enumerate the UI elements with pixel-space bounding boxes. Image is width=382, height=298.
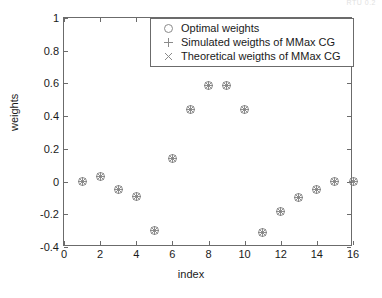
x-tick-label: 0	[61, 249, 67, 260]
x-tick-label: 16	[347, 249, 359, 260]
x-tick-label: 10	[239, 249, 251, 260]
x-tick	[245, 241, 246, 245]
x-tick	[64, 241, 65, 245]
y-tick-label: 0.2	[44, 143, 59, 154]
x-tick-label: 8	[205, 249, 211, 260]
legend-label: Theoretical weigths of MMax CG	[181, 51, 341, 62]
x-axis-label: index	[0, 268, 382, 280]
x-tick	[317, 241, 318, 245]
y-tick	[64, 51, 68, 52]
x-tick	[353, 241, 354, 245]
x-tick	[172, 241, 173, 245]
y-tick-label: -0.2	[40, 209, 59, 220]
y-tick	[347, 214, 351, 215]
times-marker	[239, 104, 250, 115]
y-tick-label: -0.4	[40, 242, 59, 253]
scatter-plot-figure: RTU 0.2 weights index -0.4-0.200.20.40.6…	[0, 0, 382, 298]
y-tick-label: 0.4	[44, 111, 59, 122]
times-marker	[167, 153, 178, 164]
y-tick-label: 0.8	[44, 45, 59, 56]
y-tick	[347, 149, 351, 150]
y-tick-label: 0.6	[44, 78, 59, 89]
times-marker	[329, 176, 340, 187]
y-tick	[64, 116, 68, 117]
legend-entry: Theoretical weigths of MMax CG	[151, 49, 353, 63]
y-tick	[347, 116, 351, 117]
y-tick-label: 0	[53, 176, 59, 187]
x-tick-label: 12	[275, 249, 287, 260]
x-tick	[100, 241, 101, 245]
times-marker	[275, 206, 286, 217]
y-tick	[64, 182, 68, 183]
y-tick	[347, 83, 351, 84]
times-marker	[149, 225, 160, 236]
y-tick	[64, 83, 68, 84]
times-marker	[221, 80, 232, 91]
plus-marker-icon	[155, 37, 181, 48]
x-tick	[136, 241, 137, 245]
y-tick-label: 1	[53, 13, 59, 24]
times-marker	[293, 192, 304, 203]
times-marker	[348, 176, 359, 187]
y-tick	[64, 214, 68, 215]
x-tick	[64, 18, 65, 22]
top-artifact-text: RTU 0.2	[347, 0, 376, 6]
times-marker	[113, 184, 124, 195]
y-tick	[64, 149, 68, 150]
legend-label: Simulated weigths of MMax CG	[181, 37, 335, 48]
circle-marker-icon	[155, 23, 181, 34]
times-marker	[131, 191, 142, 202]
legend-label: Optimal weights	[181, 23, 259, 34]
x-tick	[281, 241, 282, 245]
legend: Optimal weights Simulated weigths of MMa…	[150, 18, 354, 67]
x-tick-label: 4	[133, 249, 139, 260]
times-marker	[95, 171, 106, 182]
legend-entry: Optimal weights	[151, 21, 353, 35]
x-tick-label: 14	[311, 249, 323, 260]
times-marker	[257, 227, 268, 238]
times-marker	[185, 104, 196, 115]
legend-entry: Simulated weigths of MMax CG	[151, 35, 353, 49]
y-axis-label: weights	[8, 94, 20, 131]
x-tick-label: 6	[169, 249, 175, 260]
times-marker	[203, 80, 214, 91]
times-marker	[77, 176, 88, 187]
x-tick	[209, 241, 210, 245]
times-marker	[311, 184, 322, 195]
x-tick-label: 2	[97, 249, 103, 260]
x-tick	[100, 18, 101, 22]
times-marker-icon	[155, 51, 181, 62]
x-tick	[136, 18, 137, 22]
